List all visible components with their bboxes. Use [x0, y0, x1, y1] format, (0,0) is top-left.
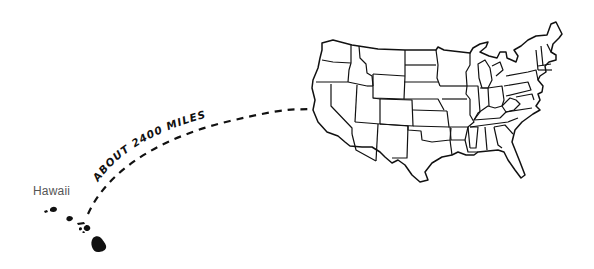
island-maui: [84, 225, 91, 231]
hawaii-islands: [44, 207, 106, 252]
island-lanai: [79, 227, 82, 230]
distance-arc: [88, 109, 313, 214]
island-niihau: [44, 210, 48, 213]
island-big-island: [91, 236, 106, 252]
us-outline: [312, 22, 562, 182]
island-oahu: [66, 216, 73, 221]
island-molokai: [77, 222, 85, 225]
map-canvas: ABOUT 2400 MILES: [0, 0, 594, 269]
distance-label: ABOUT 2400 MILES: [89, 108, 207, 184]
island-kauai: [50, 207, 57, 212]
hawaii-distance-diagram: ABOUT 2400 MILES: [0, 0, 594, 269]
hawaii-label: Hawaii: [33, 184, 70, 198]
us-mainland-map: [312, 22, 562, 182]
island-kahoolawe: [82, 231, 85, 233]
